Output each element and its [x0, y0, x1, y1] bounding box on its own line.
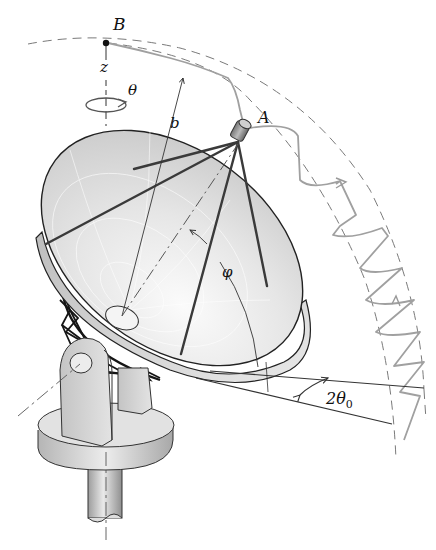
label-axis-z: z [99, 58, 108, 76]
path-arrow-2 [392, 296, 400, 306]
cone-angle-lines [196, 362, 424, 424]
label-point-a: A [256, 108, 270, 127]
point-b-marker [103, 40, 109, 46]
label-rotation-theta: θ [128, 81, 137, 99]
rear-bearing-block [118, 368, 152, 414]
antenna-mount [38, 338, 174, 522]
outer-dashed-arc-tail [424, 390, 426, 420]
label-radius-b: b [170, 114, 180, 132]
antenna-diagram: B A z θ b φ 2θ0 [0, 0, 436, 550]
label-cone-angle: 2θ0 [325, 389, 353, 411]
feed-horn [230, 117, 253, 142]
label-angle-phi: φ [222, 263, 233, 281]
yoke-pivot-hole [70, 353, 92, 373]
label-point-b: B [112, 14, 126, 34]
